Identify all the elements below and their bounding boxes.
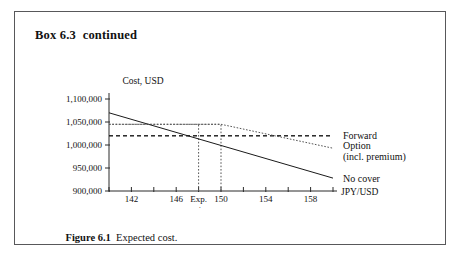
y-tick-label: 1,000,000 [66,140,103,150]
y-tick-label: 900,000 [73,186,103,196]
chart-svg: Cost, USD900,000950,0001,000,0001,050,00… [15,56,445,208]
x-axis-title: JPY/USD [341,187,379,197]
series-label-no-cover: No cover [343,173,381,184]
x-tick-label: Exp. [190,194,207,204]
x-tick-label: 150 [214,194,228,204]
x-tick-label: rate [192,204,206,208]
figure-caption-text: Expected cost. [116,232,177,243]
expected-cost-chart: Cost, USD900,000950,0001,000,0001,050,00… [15,56,445,208]
y-tick-label: 950,000 [73,163,103,173]
series-no-cover [109,113,333,178]
box-title: Box 6.3 continued [35,28,137,43]
x-tick-label: 142 [125,194,139,204]
series-label-option: Option [343,140,371,151]
y-axis-title: Cost, USD [122,76,163,86]
x-tick-label: 154 [259,194,273,204]
x-tick-label: 158 [304,194,318,204]
y-tick-label: 1,050,000 [66,117,103,127]
figure-caption: Figure 6.1 Expected cost. [55,221,177,254]
y-tick-label: 1,100,000 [66,94,103,104]
figure-number: Figure 6.1 [66,232,111,243]
x-tick-label: 146 [169,194,183,204]
series-label-option-premium: (incl. premium) [343,151,406,163]
box-container: Box 6.3 continued Cost, USD900,000950,00… [14,11,446,245]
